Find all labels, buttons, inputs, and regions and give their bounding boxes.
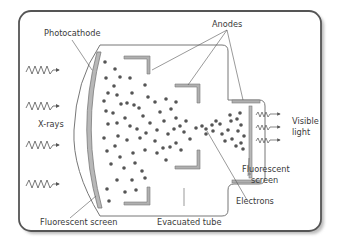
diagram-frame — [19, 11, 321, 231]
label-visible-light-1: Visible — [292, 116, 319, 126]
label-evacuated-tube: Evacuated tube — [157, 217, 221, 227]
label-xrays: X-rays — [38, 119, 64, 129]
label-input-screen: Fluorescent screen — [40, 217, 117, 227]
label-photocathode: Photocathode — [44, 28, 101, 38]
label-visible-light-2: light — [292, 127, 311, 137]
image-intensifier-diagram: Photocathode Anodes X-rays Visible light… — [0, 0, 340, 248]
label-electrons: Electrons — [236, 196, 274, 206]
label-output-screen-1: Fluorescent — [242, 164, 290, 174]
label-output-screen-2: screen — [251, 175, 278, 185]
label-anodes: Anodes — [212, 19, 242, 29]
